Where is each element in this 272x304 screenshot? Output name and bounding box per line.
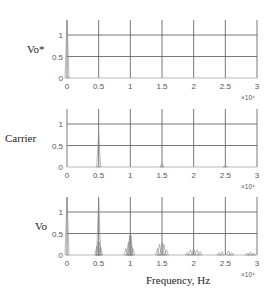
x-tick-label: 2 bbox=[191, 82, 196, 91]
panel-vo: 00.511.522.5300.51Vo*×10⁴ bbox=[27, 20, 260, 101]
panel-vo: 00.511.522.5300.51Vo×10⁴Frequency, Hz bbox=[35, 197, 260, 286]
x-tick-label: 3 bbox=[255, 171, 260, 180]
x-tick-label: 3 bbox=[255, 259, 260, 268]
y-tick-label: 0.5 bbox=[52, 230, 64, 239]
x-axis-label: Frequency, Hz bbox=[146, 274, 210, 286]
x-tick-label: 1 bbox=[128, 259, 133, 268]
spectrum-spike bbox=[198, 252, 202, 255]
x-tick-label: 0 bbox=[65, 82, 70, 91]
y-axis-label: Carrier bbox=[5, 132, 36, 144]
x-tick-label: 1.5 bbox=[156, 259, 168, 268]
x-tick-label: 2.5 bbox=[220, 259, 232, 268]
x-tick-label: 2 bbox=[191, 259, 196, 268]
x-tick-label: 2.5 bbox=[220, 82, 232, 91]
x-multiplier-label: ×10⁴ bbox=[241, 94, 255, 101]
x-tick-label: 1 bbox=[128, 171, 133, 180]
x-tick-label: 0 bbox=[65, 171, 70, 180]
y-tick-label: 0 bbox=[59, 163, 64, 172]
x-tick-label: 1.5 bbox=[156, 82, 168, 91]
spectrum-chart: 00.511.522.5300.51Vo*×10⁴00.511.522.5300… bbox=[0, 0, 272, 304]
x-tick-label: 0.5 bbox=[93, 82, 105, 91]
spectrum-spike bbox=[220, 252, 224, 255]
y-tick-label: 1 bbox=[59, 120, 64, 129]
x-multiplier-label: ×10⁴ bbox=[241, 271, 255, 278]
x-tick-label: 0 bbox=[65, 259, 70, 268]
x-tick-label: 0.5 bbox=[93, 171, 105, 180]
y-tick-label: 0 bbox=[59, 74, 64, 83]
x-tick-label: 0.5 bbox=[93, 259, 105, 268]
y-tick-label: 0.5 bbox=[52, 53, 64, 62]
x-tick-label: 2 bbox=[191, 171, 196, 180]
x-tick-label: 3 bbox=[255, 82, 260, 91]
y-axis-label: Vo* bbox=[27, 43, 45, 55]
spectrum-spike bbox=[252, 253, 256, 255]
x-tick-label: 1.5 bbox=[156, 171, 168, 180]
y-tick-label: 0 bbox=[59, 251, 64, 260]
panel-carrier: 00.511.522.5300.51Carrier×10⁴ bbox=[5, 109, 260, 190]
y-tick-label: 0.5 bbox=[52, 142, 64, 151]
y-tick-label: 1 bbox=[59, 208, 64, 217]
y-tick-label: 1 bbox=[59, 31, 64, 40]
y-axis-label: Vo bbox=[35, 220, 48, 232]
x-tick-label: 2.5 bbox=[220, 171, 232, 180]
x-tick-label: 1 bbox=[128, 82, 133, 91]
x-multiplier-label: ×10⁴ bbox=[241, 183, 255, 190]
